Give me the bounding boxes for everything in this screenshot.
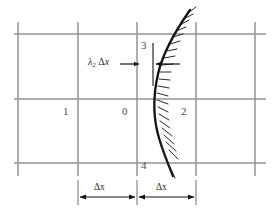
x-variable: x [105,56,109,67]
node-label-3: 3 [141,40,147,51]
footer-artifact-text [4,203,154,215]
lambda-delta-x-label: λ2 Δx [88,57,109,69]
grid-horizontal-lines [14,34,266,163]
figure-canvas [0,0,273,218]
dimension-label-right: Δx [156,183,167,193]
node-label-1: 1 [63,106,69,117]
finite-difference-grid-figure: 0 1 2 3 4 λ2 Δx Δx Δx [0,0,273,218]
node-label-2: 2 [181,106,187,117]
node-label-4: 4 [141,160,147,171]
dimension-label-left: Δx [94,183,105,193]
node-label-0: 0 [122,106,128,117]
